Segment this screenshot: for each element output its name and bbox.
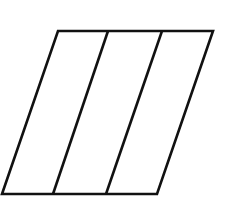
outer-parallelogram (2, 31, 213, 194)
diagram-canvas (0, 0, 229, 204)
divider-line-2 (106, 31, 162, 194)
divider-line-1 (53, 31, 108, 194)
